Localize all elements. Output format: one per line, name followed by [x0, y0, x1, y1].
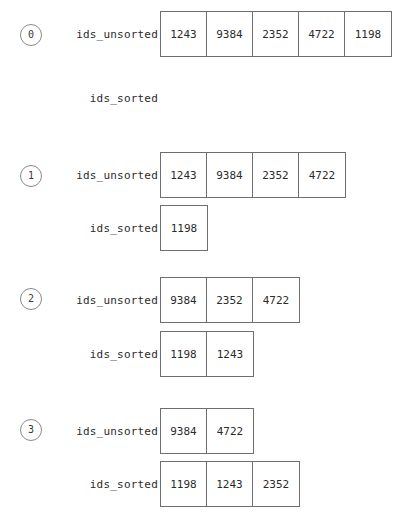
array-cell: 2352 — [207, 278, 253, 322]
sorted-array-line: ids_sorted — [0, 75, 407, 121]
unsorted-array-label: ids_unsorted — [76, 11, 158, 57]
unsorted-array-cells: 9384 2352 4722 — [160, 277, 300, 323]
unsorted-array-line: ids_unsorted 1243 9384 2352 4722 1198 — [0, 11, 407, 57]
sorted-array-cells: 1198 1243 2352 — [160, 461, 300, 507]
sorted-array-label: ids_sorted — [90, 331, 158, 377]
unsorted-array-line: ids_unsorted 9384 4722 — [0, 408, 407, 454]
sorted-array-line: ids_sorted 1198 1243 — [0, 331, 407, 377]
sorted-array-line: ids_sorted 1198 — [0, 205, 407, 251]
array-cell: 4722 — [299, 153, 345, 197]
array-cell: 1198 — [161, 206, 207, 250]
sort-trace-diagram: 0 ids_unsorted 1243 9384 2352 4722 1198 … — [0, 0, 407, 528]
sorted-array-label: ids_sorted — [90, 205, 158, 251]
array-cell: 4722 — [299, 12, 345, 56]
sorted-array-cells: 1198 1243 — [160, 331, 254, 377]
unsorted-array-cells: 1243 9384 2352 4722 1198 — [160, 11, 392, 57]
array-cell: 9384 — [207, 153, 253, 197]
array-cell: 9384 — [207, 12, 253, 56]
unsorted-array-line: ids_unsorted 1243 9384 2352 4722 — [0, 152, 407, 198]
array-cell: 1198 — [161, 462, 207, 506]
array-cell: 1243 — [207, 462, 253, 506]
array-cell: 1243 — [161, 153, 207, 197]
unsorted-array-line: ids_unsorted 9384 2352 4722 — [0, 277, 407, 323]
array-cell: 4722 — [253, 278, 299, 322]
unsorted-array-label: ids_unsorted — [76, 277, 158, 323]
sorted-array-cells: 1198 — [160, 205, 208, 251]
array-cell: 9384 — [161, 409, 207, 453]
array-cell: 2352 — [253, 153, 299, 197]
unsorted-array-label: ids_unsorted — [76, 408, 158, 454]
unsorted-array-cells: 9384 4722 — [160, 408, 254, 454]
unsorted-array-label: ids_unsorted — [76, 152, 158, 198]
sorted-array-label: ids_sorted — [90, 461, 158, 507]
unsorted-array-cells: 1243 9384 2352 4722 — [160, 152, 346, 198]
array-cell: 1243 — [161, 12, 207, 56]
array-cell: 1198 — [345, 12, 391, 56]
array-cell: 1243 — [207, 332, 253, 376]
array-cell: 4722 — [207, 409, 253, 453]
array-cell: 9384 — [161, 278, 207, 322]
array-cell: 2352 — [253, 462, 299, 506]
sorted-array-label: ids_sorted — [90, 75, 158, 121]
array-cell: 2352 — [253, 12, 299, 56]
array-cell: 1198 — [161, 332, 207, 376]
sorted-array-line: ids_sorted 1198 1243 2352 — [0, 461, 407, 507]
